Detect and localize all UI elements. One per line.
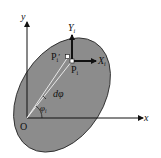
local-y-label: Yi <box>68 22 76 34</box>
x-axis-label: x <box>143 112 149 123</box>
rotating-ellipse-diagram: y x O Yi Xi Pi′ Pi dφ φi <box>0 0 161 158</box>
point-Pi <box>70 59 74 63</box>
ellipse-body <box>0 20 130 158</box>
y-axis-label: y <box>20 11 26 22</box>
origin-label: O <box>20 121 27 132</box>
point-Pi-prime <box>66 55 70 59</box>
dphi-label: dφ <box>53 88 64 99</box>
point-Pi-prime-label: Pi′ <box>51 51 60 63</box>
